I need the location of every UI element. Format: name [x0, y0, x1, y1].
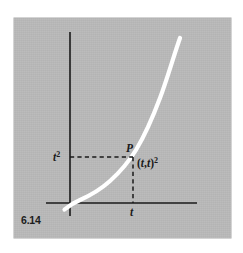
figure-number: 6.14	[21, 215, 41, 226]
y-tick-label: t2	[53, 150, 60, 164]
parabola-curve	[65, 38, 181, 210]
y-tick-exponent: 2	[56, 150, 60, 159]
figure-container: t2 t P (t,t)2 6.14	[0, 0, 243, 253]
x-tick-label: t	[130, 206, 134, 218]
point-coordinate-label: (t,t)2	[137, 156, 158, 171]
point-p-label: P	[126, 142, 134, 154]
coord-exponent: 2	[154, 156, 158, 165]
